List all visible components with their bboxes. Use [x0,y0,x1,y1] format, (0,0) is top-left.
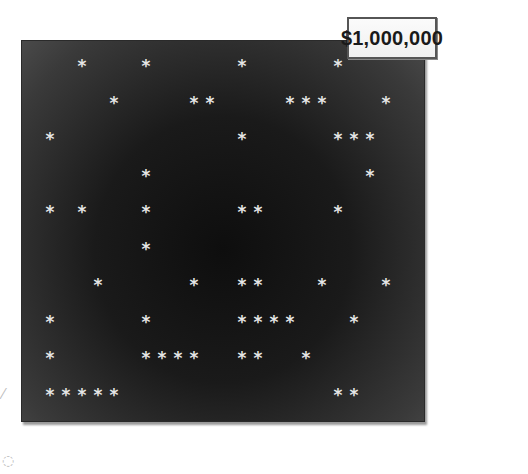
asterisk-icon: * [235,348,249,368]
asterisk-icon: * [91,385,105,405]
asterisk-icon: * [75,385,89,405]
asterisk-icon: * [43,202,57,222]
asterisk-icon: * [379,275,393,295]
asterisk-icon: * [75,202,89,222]
asterisk-icon: * [331,385,345,405]
asterisk-icon: * [75,56,89,76]
asterisk-icon: * [139,348,153,368]
asterisk-icon: * [235,202,249,222]
asterisk-icon: * [347,129,361,149]
asterisk-icon: * [43,348,57,368]
asterisk-icon: * [331,56,345,76]
asterisk-icon: * [251,348,265,368]
star-row: ******** [22,348,424,368]
asterisk-icon: * [299,93,313,113]
asterisk-icon: * [43,129,57,149]
prize-amount-label: $1,000,000 [347,17,437,59]
asterisk-icon: * [59,385,73,405]
asterisk-board: ****************************************… [21,40,425,422]
asterisk-icon: * [139,56,153,76]
asterisk-icon: * [315,275,329,295]
asterisk-icon: * [235,129,249,149]
asterisk-icon: * [139,239,153,259]
cropped-heading [0,0,528,4]
asterisk-icon: * [251,202,265,222]
asterisk-icon: * [187,275,201,295]
asterisk-icon: * [251,275,265,295]
asterisk-icon: * [171,348,185,368]
asterisk-icon: * [331,202,345,222]
asterisk-icon: * [187,93,201,113]
asterisk-icon: * [283,93,297,113]
star-row: ****** [22,202,424,222]
asterisk-icon: * [139,166,153,186]
star-row: **** [22,56,424,76]
asterisk-icon: * [235,312,249,332]
margin-scribble-icon: ◌ [2,452,14,468]
asterisk-icon: * [267,312,281,332]
star-row: ***** [22,129,424,149]
asterisk-icon: * [251,312,265,332]
star-row: ******* [22,93,424,113]
asterisk-icon: * [235,56,249,76]
asterisk-icon: * [43,385,57,405]
star-row: * [22,239,424,259]
asterisk-icon: * [299,348,313,368]
star-row: ****** [22,275,424,295]
star-row: ******* [22,312,424,332]
asterisk-icon: * [155,348,169,368]
asterisk-icon: * [347,312,361,332]
asterisk-icon: * [43,312,57,332]
asterisk-icon: * [91,275,105,295]
asterisk-icon: * [315,93,329,113]
asterisk-icon: * [203,93,217,113]
asterisk-icon: * [107,93,121,113]
asterisk-icon: * [363,129,377,149]
asterisk-icon: * [139,312,153,332]
star-row: ******* [22,385,424,405]
margin-scribble-icon: ⁄ [2,386,4,402]
star-row: ** [22,166,424,186]
asterisk-icon: * [107,385,121,405]
asterisk-icon: * [363,166,377,186]
asterisk-icon: * [379,93,393,113]
asterisk-icon: * [187,348,201,368]
asterisk-icon: * [235,275,249,295]
asterisk-icon: * [331,129,345,149]
asterisk-icon: * [139,202,153,222]
asterisk-icon: * [283,312,297,332]
asterisk-icon: * [347,385,361,405]
